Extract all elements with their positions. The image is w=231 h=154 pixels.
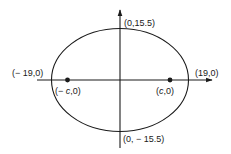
top-co-vertex-label: (0,15.5)	[124, 18, 155, 28]
left-focus-point	[65, 78, 70, 83]
bottom-co-vertex-label: (0, − 15.5)	[123, 134, 164, 144]
right-vertex-label: (19,0)	[195, 68, 219, 78]
right-focus-label: (c,0)	[156, 86, 174, 96]
left-vertex-label: (− 19,0)	[12, 68, 43, 78]
right-focus-point	[168, 78, 173, 83]
left-focus-label: (− c,0)	[55, 86, 81, 96]
